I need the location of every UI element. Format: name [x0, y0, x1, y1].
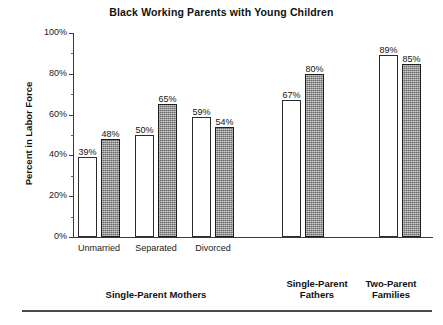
x-category-label: Divorced — [173, 243, 253, 253]
y-tick-major — [69, 237, 74, 238]
bar: 67% — [282, 100, 301, 237]
y-tick-label: 80% — [27, 69, 67, 78]
bar: 59% — [192, 117, 211, 237]
bar-value-label: 89% — [379, 46, 397, 55]
bar: 39% — [78, 157, 97, 237]
bar: 65% — [158, 104, 177, 237]
y-tick-major — [69, 115, 74, 116]
group-heading: Single-Parent Mothers — [86, 289, 226, 300]
chart-figure: Black Working Parents with Young Childre… — [0, 0, 443, 325]
y-axis-label: Percent in Labor Force — [23, 34, 34, 234]
y-tick-label: 40% — [27, 150, 67, 159]
bar-value-label: 48% — [101, 130, 119, 139]
bar-value-label: 59% — [192, 108, 210, 117]
y-tick-minor — [71, 135, 74, 136]
y-tick-major — [69, 196, 74, 197]
bar: 80% — [305, 74, 324, 237]
y-tick-label: 20% — [27, 191, 67, 200]
bar-value-label: 54% — [215, 118, 233, 127]
bar-value-label: 80% — [305, 65, 323, 74]
bar-value-label: 65% — [158, 95, 176, 104]
bar: 48% — [101, 139, 120, 237]
y-tick-major — [69, 33, 74, 34]
bar: 50% — [135, 135, 154, 237]
bar: 85% — [402, 64, 421, 237]
plot-area: 0%20%40%60%80%100% 39%48%50%65%59%54%67%… — [73, 33, 433, 238]
bar: 89% — [379, 55, 398, 237]
y-tick-major — [69, 74, 74, 75]
y-tick-label: 60% — [27, 110, 67, 119]
bar-value-label: 67% — [282, 91, 300, 100]
y-tick-minor — [71, 176, 74, 177]
bar-value-label: 39% — [78, 148, 96, 157]
footer-divider — [22, 310, 432, 312]
bar-value-label: 50% — [135, 126, 153, 135]
y-tick-major — [69, 155, 74, 156]
group-heading: Two-Parent Families — [321, 278, 443, 300]
bar-value-label: 85% — [402, 55, 420, 64]
chart-title: Black Working Parents with Young Childre… — [0, 6, 443, 18]
y-tick-label: 0% — [27, 232, 67, 241]
y-tick-label: 100% — [27, 28, 67, 37]
y-tick-minor — [71, 94, 74, 95]
x-axis-line — [73, 237, 433, 238]
bar: 54% — [215, 127, 234, 237]
y-tick-minor — [71, 53, 74, 54]
y-tick-minor — [71, 217, 74, 218]
